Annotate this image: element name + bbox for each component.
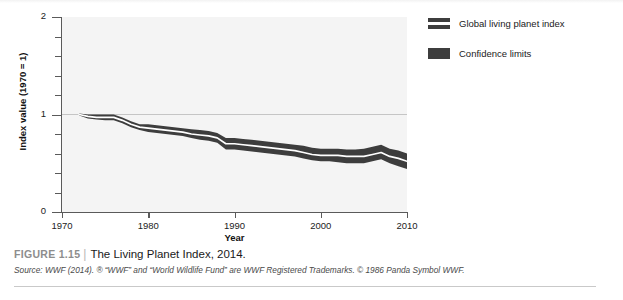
caption-heading: FIGURE 1.15|The Living Planet Index, 201… — [14, 247, 246, 261]
y-axis-major-tick — [52, 115, 61, 116]
y-axis-minor-tick — [55, 173, 61, 174]
figure-number: FIGURE 1.15 — [14, 248, 80, 260]
figure-container: 012 19701980199020002010 Index value (19… — [0, 0, 623, 300]
x-axis-tick-label: 2010 — [377, 220, 437, 231]
x-axis-major-tick — [235, 212, 236, 218]
y-axis-tick-label: 0 — [0, 206, 46, 216]
legend-label: Confidence limits — [459, 48, 531, 59]
plot-canvas — [62, 17, 407, 212]
caption-divider: | — [80, 247, 90, 261]
legend-swatch-line-icon — [428, 18, 450, 29]
legend-item-global-living-planet-index: Global living planet index — [428, 18, 618, 29]
x-axis-tick-label: 2000 — [291, 220, 351, 231]
y-axis-minor-tick — [55, 193, 61, 194]
y-axis-minor-tick — [55, 134, 61, 135]
legend-swatch-band-icon — [428, 48, 450, 59]
y-axis-major-tick — [52, 17, 61, 18]
x-axis-title: Year — [62, 232, 407, 243]
chart-legend: Global living planet index Confidence li… — [428, 18, 618, 78]
y-axis-minor-tick — [55, 37, 61, 38]
x-axis-major-tick — [62, 212, 63, 218]
x-axis-tick-label: 1970 — [32, 220, 92, 231]
x-axis-major-tick — [321, 212, 322, 218]
x-axis-tick-label: 1990 — [205, 220, 265, 231]
x-axis-major-tick — [407, 212, 408, 218]
y-axis-minor-tick — [55, 76, 61, 77]
caption-divider-rule — [14, 286, 596, 287]
chart: 012 19701980199020002010 Index value (19… — [0, 0, 623, 240]
x-axis-major-tick — [148, 212, 149, 218]
y-axis-line — [61, 17, 62, 213]
legend-label: Global living planet index — [459, 18, 565, 29]
y-axis-minor-tick — [55, 154, 61, 155]
plot-area — [62, 17, 407, 212]
y-axis-minor-tick — [55, 95, 61, 96]
y-axis-major-tick — [52, 212, 61, 213]
legend-item-confidence-limits: Confidence limits — [428, 48, 618, 59]
x-axis-tick-label: 1980 — [118, 220, 178, 231]
caption-source: Source: WWF (2014). ® “WWF” and “World W… — [14, 265, 464, 276]
caption-title: The Living Planet Index, 2014. — [90, 248, 245, 260]
y-axis-title: Index value (1970 = 1) — [17, 17, 28, 187]
y-axis-minor-tick — [55, 56, 61, 57]
confidence-band — [79, 114, 407, 170]
